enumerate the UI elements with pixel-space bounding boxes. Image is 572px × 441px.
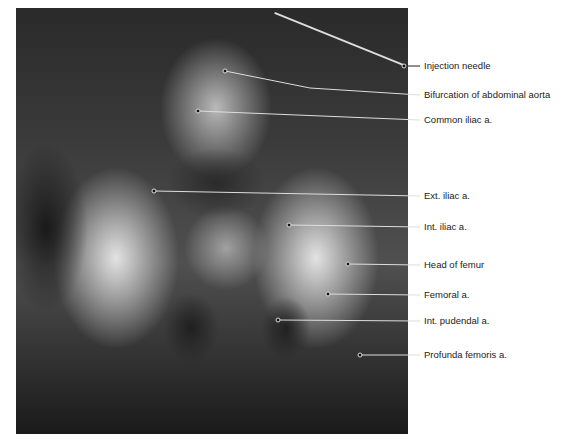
label-aortic-bifurcation: Bifurcation of abdominal aorta <box>424 89 550 101</box>
label-profunda-femoris: Profunda femoris a. <box>424 349 507 361</box>
label-femoral: Femoral a. <box>424 289 469 301</box>
label-common-iliac: Common iliac a. <box>424 114 492 126</box>
label-head-of-femur: Head of femur <box>424 259 484 271</box>
label-int-iliac: Int. iliac a. <box>424 221 467 233</box>
label-int-pudendal: Int. pudendal a. <box>424 315 490 327</box>
label-injection-needle: Injection needle <box>424 60 491 72</box>
label-ext-iliac: Ext. iliac a. <box>424 190 470 202</box>
